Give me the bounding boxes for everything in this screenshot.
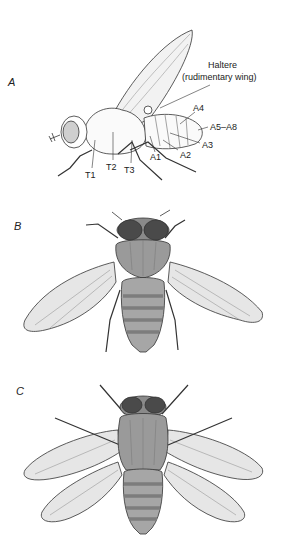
label-t3: T3 xyxy=(124,165,135,175)
left-antenna xyxy=(112,212,122,220)
panel-b-fly-dorsal xyxy=(24,210,263,352)
label-a5-a8: A5–A8 xyxy=(210,122,237,132)
right-eye xyxy=(144,220,168,240)
left-eye xyxy=(122,397,142,413)
left-eye xyxy=(118,220,142,240)
label-haltere: Haltere xyxy=(208,60,237,70)
right-eye xyxy=(145,397,165,413)
label-a3: A3 xyxy=(202,140,213,150)
right-wing xyxy=(168,262,263,322)
abdomen xyxy=(144,114,202,148)
panel-c-fly-four-winged xyxy=(24,385,263,534)
label-t2: T2 xyxy=(106,162,117,172)
panel-label-c: C xyxy=(16,385,24,397)
label-a4: A4 xyxy=(193,103,204,113)
fly-anatomy-figure: A B C Haltere (rudimentary wing) A4 A5–A… xyxy=(0,0,288,544)
panel-label-a: A xyxy=(8,76,15,88)
left-foreleg xyxy=(86,224,118,238)
compound-eye xyxy=(63,121,79,143)
left-wing xyxy=(24,262,116,331)
abdomen xyxy=(123,469,162,534)
haltere xyxy=(144,106,152,114)
label-t1: T1 xyxy=(85,170,96,180)
abdomen xyxy=(121,278,164,353)
label-a1: A1 xyxy=(150,152,161,162)
label-haltere-note: (rudimentary wing) xyxy=(182,72,257,82)
label-a2: A2 xyxy=(180,150,191,160)
panel-label-b: B xyxy=(14,220,21,232)
right-antenna xyxy=(160,210,170,216)
